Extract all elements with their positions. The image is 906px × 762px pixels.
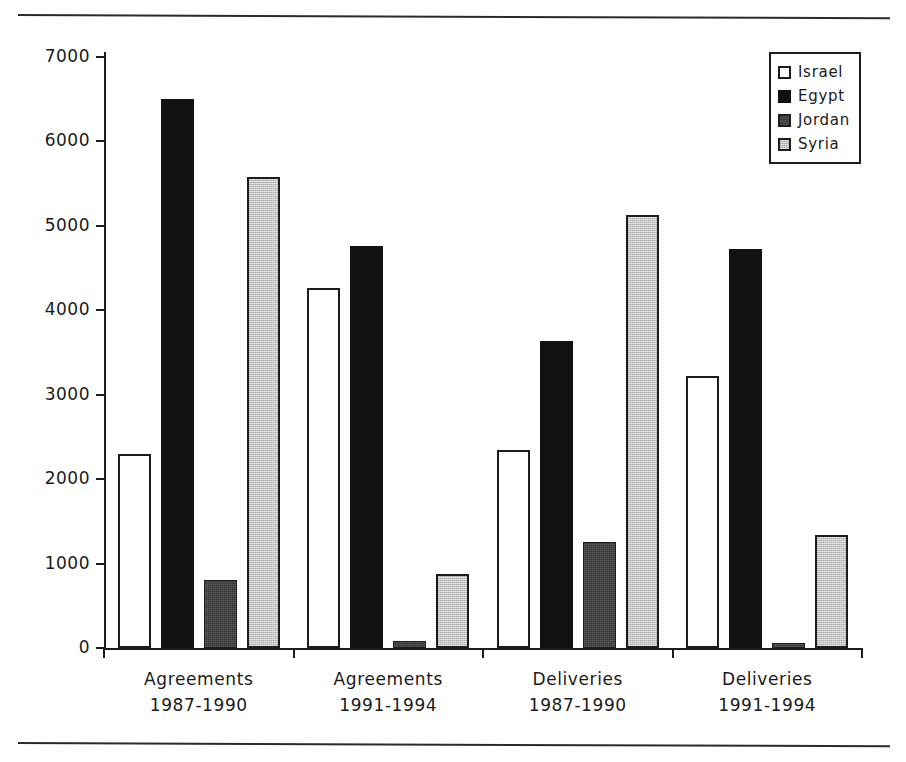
- group-label-category: Deliveries: [722, 669, 813, 689]
- legend-item-israel[interactable]: Israel: [778, 60, 853, 84]
- y-tick-label: 3000: [30, 386, 90, 403]
- bar-jordan-group-4: [772, 643, 805, 648]
- y-tick-mark: [96, 56, 105, 58]
- bar-israel-group-4: [686, 376, 719, 648]
- y-tick-label: 5000: [30, 217, 90, 234]
- group-label-3: Deliveries1987-1990: [483, 666, 673, 718]
- x-axis-separator: [672, 648, 674, 658]
- y-tick-label: 2000: [30, 470, 90, 487]
- group-label-period: 1987-1990: [483, 692, 673, 718]
- legend-label-syria: Syria: [798, 137, 839, 152]
- bar-syria-group-3: [626, 215, 659, 648]
- bar-jordan-group-2: [393, 641, 426, 648]
- group-label-period: 1991-1994: [294, 692, 484, 718]
- legend-item-jordan[interactable]: Jordan: [778, 108, 853, 132]
- x-axis-separator: [293, 648, 295, 658]
- bar-jordan-group-3: [583, 542, 616, 648]
- legend-swatch-israel-icon: [778, 66, 791, 79]
- bar-syria-group-1: [247, 177, 280, 648]
- legend-label-israel: Israel: [798, 65, 843, 80]
- group-label-period: 1991-1994: [673, 692, 863, 718]
- bar-egypt-group-4: [729, 249, 762, 648]
- bar-syria-group-2: [436, 574, 469, 648]
- y-tick-mark: [96, 563, 105, 565]
- bar-jordan-group-1: [204, 580, 237, 648]
- group-label-category: Agreements: [144, 669, 253, 689]
- x-axis-separator: [103, 648, 105, 658]
- group-label-4: Deliveries1991-1994: [673, 666, 863, 718]
- group-label-period: 1987-1990: [104, 692, 294, 718]
- bar-syria-group-4: [815, 535, 848, 648]
- legend-item-syria[interactable]: Syria: [778, 132, 853, 156]
- bar-israel-group-3: [497, 450, 530, 648]
- group-label-category: Agreements: [334, 669, 443, 689]
- y-tick-label: 0: [30, 639, 90, 656]
- legend-swatch-jordan-icon: [778, 114, 791, 127]
- legend-label-egypt: Egypt: [798, 89, 845, 104]
- y-tick-mark: [96, 309, 105, 311]
- bar-egypt-group-1: [161, 99, 194, 648]
- y-tick-mark: [96, 225, 105, 227]
- group-label-2: Agreements1991-1994: [294, 666, 484, 718]
- bar-egypt-group-3: [540, 341, 573, 648]
- y-tick-mark: [96, 394, 105, 396]
- group-label-category: Deliveries: [532, 669, 623, 689]
- y-tick-mark: [96, 140, 105, 142]
- group-label-1: Agreements1987-1990: [104, 666, 294, 718]
- bar-israel-group-2: [307, 288, 340, 648]
- legend-swatch-egypt-icon: [778, 90, 791, 103]
- y-tick-label: 4000: [30, 301, 90, 318]
- chart-legend: IsraelEgyptJordanSyria: [769, 52, 861, 164]
- legend-swatch-syria-icon: [778, 138, 791, 151]
- bar-israel-group-1: [118, 454, 151, 648]
- legend-label-jordan: Jordan: [798, 113, 850, 128]
- legend-item-egypt[interactable]: Egypt: [778, 84, 853, 108]
- bar-egypt-group-2: [350, 246, 383, 648]
- y-tick-label: 6000: [30, 132, 90, 149]
- y-tick-label: 1000: [30, 555, 90, 572]
- x-axis-separator: [482, 648, 484, 658]
- x-axis-separator: [861, 648, 863, 658]
- y-tick-mark: [96, 478, 105, 480]
- y-tick-label: 7000: [30, 48, 90, 65]
